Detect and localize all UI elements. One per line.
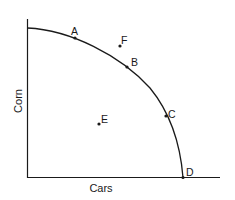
x-axis-label: Cars [89,182,113,194]
point-e: E [97,113,108,126]
svg-text:E: E [101,113,108,125]
point-b: B [125,56,138,69]
point-d: D [181,166,194,179]
y-axis-label: Corn [12,89,24,113]
svg-text:D: D [186,166,194,178]
ppf-diagram: A F B C E D Cars Corn [0,0,235,200]
svg-text:A: A [71,25,78,37]
svg-text:F: F [121,34,127,46]
point-f: F [118,34,127,48]
svg-text:C: C [168,108,176,120]
ppf-curve [28,28,184,178]
svg-text:B: B [131,56,138,68]
